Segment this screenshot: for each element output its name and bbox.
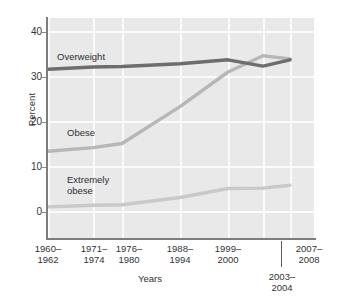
y-tick-label-30: 30 xyxy=(18,72,42,82)
x-tick-label-1999-2000-line2: 2000 xyxy=(207,254,249,265)
y-axis-title: Percent xyxy=(26,80,37,140)
x-tick-label-2007-2008: 2007– 2008 xyxy=(288,243,330,265)
series-label-extremely-obese-line2: obese xyxy=(67,185,93,196)
obesity-trend-line-chart: Percent 40 30 20 10 0 Overweight Obese E… xyxy=(0,0,343,305)
y-tick-label-40: 40 xyxy=(18,27,42,37)
y-tick-label-10: 10 xyxy=(18,162,42,172)
x-axis-line xyxy=(46,238,316,240)
series-label-overweight: Overweight xyxy=(57,51,105,62)
x-tick-label-2007-2008-line1: 2007– xyxy=(288,243,330,254)
x-tick-label-2003-2004: 2003– 2004 xyxy=(261,271,303,293)
x-tick-label-2003-2004-line2: 2004 xyxy=(261,282,303,293)
x-tick-label-1999-2000-line1: 1999– xyxy=(207,243,249,254)
series-label-extremely-obese-line1: Extremely xyxy=(67,174,109,185)
plot-area: Overweight Obese Extremely obese xyxy=(48,18,314,238)
x-tick-label-1976-1980-line1: 1976– xyxy=(108,243,150,254)
x-tick-label-1960-1962-line2: 1962 xyxy=(27,254,69,265)
x-tick-label-1988-1994: 1988– 1994 xyxy=(159,243,201,265)
y-tick-label-20: 20 xyxy=(18,117,42,127)
x-tick-label-1976-1980: 1976– 1980 xyxy=(108,243,150,265)
x-tick-label-1960-1962-line1: 1960– xyxy=(27,243,69,254)
x-tick-label-1988-1994-line2: 1994 xyxy=(159,254,201,265)
x-tick-label-1988-1994-line1: 1988– xyxy=(159,243,201,254)
x-tick-label-1960-1962: 1960– 1962 xyxy=(27,243,69,265)
x-tick-label-1976-1980-line2: 1980 xyxy=(108,254,150,265)
x-axis-separator xyxy=(281,241,282,267)
x-axis-title: Years xyxy=(138,273,162,284)
x-tick-label-1999-2000: 1999– 2000 xyxy=(207,243,249,265)
x-tick-label-2003-2004-line1: 2003– xyxy=(261,271,303,282)
x-tick-label-2007-2008-line2: 2008 xyxy=(288,254,330,265)
y-tick-label-0: 0 xyxy=(18,207,42,217)
series-label-obese: Obese xyxy=(67,127,95,138)
